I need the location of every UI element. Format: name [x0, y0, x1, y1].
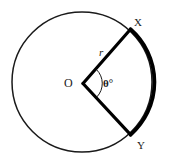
- label-angle-theta: θ°: [103, 78, 113, 89]
- circle-sector-figure: X Y O r θ°: [0, 0, 169, 167]
- angle-arc-marker: [97, 70, 103, 97]
- circle-outline: [12, 12, 152, 152]
- radius-line-oy: [83, 84, 131, 135]
- label-center-o: O: [64, 77, 73, 89]
- label-point-x: X: [134, 17, 142, 28]
- highlighted-arc-xy: [131, 29, 155, 134]
- label-radius-r: r: [99, 47, 103, 58]
- label-point-y: Y: [137, 140, 145, 151]
- radius-line-ox: [83, 29, 131, 83]
